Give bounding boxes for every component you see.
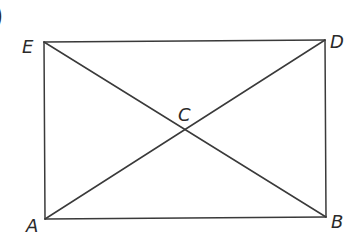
segment-ED: [44, 40, 325, 42]
point-label-D: D: [330, 33, 344, 51]
rectangle-diagram: [0, 0, 360, 252]
diagonal-AD: [45, 40, 325, 219]
point-label-E: E: [22, 38, 33, 56]
geometry-figure: ) E D C A B: [0, 0, 360, 252]
point-label-A: A: [26, 217, 38, 235]
point-label-B: B: [331, 213, 343, 231]
segment-EA: [44, 42, 45, 219]
point-label-C: C: [178, 106, 191, 124]
segment-DB: [325, 40, 326, 217]
segment-AB: [45, 217, 326, 219]
